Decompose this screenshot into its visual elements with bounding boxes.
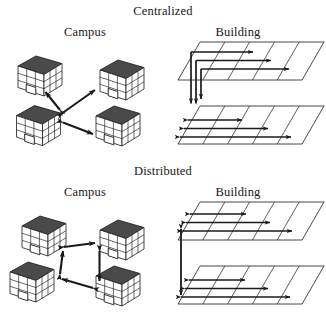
lower-floor-plate	[178, 106, 324, 144]
campus-building-d4	[96, 266, 140, 306]
link-d4-d3	[62, 279, 93, 288]
link-d3-d1	[60, 251, 63, 274]
link-hub-to-b2	[63, 90, 96, 113]
campus-building-d3	[10, 262, 54, 302]
link-hub-to-b4	[63, 123, 93, 135]
campus-building-d1	[22, 216, 66, 256]
centralized-campus-diagram	[17, 56, 144, 146]
campus-building-b2	[100, 60, 144, 100]
campus-building-d2	[100, 220, 144, 260]
campus-building-hub	[17, 106, 61, 146]
distributed-campus-diagram	[10, 216, 144, 306]
campus-building-b4	[96, 106, 140, 146]
distributed-building-diagram	[178, 202, 324, 304]
dist-lower-floor-plate	[178, 266, 324, 304]
centralized-building-diagram	[178, 42, 324, 144]
campus-ring-links	[60, 243, 100, 288]
campus-building-b1	[18, 56, 62, 96]
link-hub-to-b1	[46, 92, 61, 110]
link-d1-d2	[64, 243, 95, 247]
network-topology-figure: Centralized Campus Building Distributed …	[0, 0, 326, 324]
figure-artwork	[0, 0, 326, 324]
dist-upper-floor-plate	[178, 202, 324, 240]
